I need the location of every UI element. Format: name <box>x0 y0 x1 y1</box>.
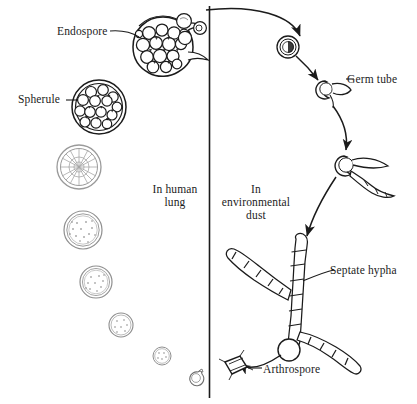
mature-spherule-packed-endospores <box>72 80 126 134</box>
diagram-canvas <box>0 0 417 404</box>
germ-tube-stage <box>316 81 351 108</box>
rounding-spore <box>109 313 133 337</box>
arrow-branching-hypha-to-septate-hypha <box>307 177 336 236</box>
label-septate-hypha: Septate hypha <box>330 264 397 277</box>
label-arthrospore: Arthrospore <box>263 363 320 376</box>
label-endospore: Endospore <box>57 25 108 38</box>
released-endospore-right <box>277 36 299 58</box>
label-in-human-lung: In human lung <box>144 183 206 209</box>
small-spore <box>153 347 171 365</box>
inhaled-arthrospore <box>190 369 204 386</box>
label-in-environmental-dust: In environmental dust <box>213 183 299 222</box>
label-spherule: Spherule <box>18 93 60 106</box>
arrow-spherule-rupture-to-environment <box>206 8 300 36</box>
arthrospore-fragment <box>219 350 253 380</box>
septate-hypha-mycelium <box>226 233 361 374</box>
label-in-human-lung-line2: lung <box>144 196 206 209</box>
segmenting-spherule <box>57 145 101 189</box>
branching-hypha-stage <box>335 156 394 197</box>
life-cycle-diagram: Endospore Spherule In human lung In envi… <box>0 0 417 404</box>
label-in-environmental-dust-line2: environmental <box>213 196 299 209</box>
label-in-environmental-dust-line1: In <box>213 183 299 196</box>
arrow-germ-tube-to-branching-hypha <box>333 106 347 150</box>
label-in-environmental-dust-line3: dust <box>213 209 299 222</box>
label-germ-tube: Germ tube <box>347 73 397 86</box>
label-in-human-lung-line1: In human <box>144 183 206 196</box>
enlarging-spherule <box>64 211 102 249</box>
arrow-endospore-to-germ-tube <box>296 56 318 80</box>
young-spherule <box>80 266 112 298</box>
